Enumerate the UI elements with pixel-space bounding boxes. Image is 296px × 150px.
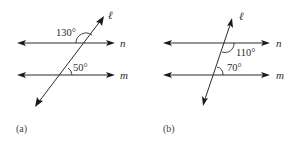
caption-b: (b) [163, 123, 175, 135]
figure-b: 110° 70° ℓ n m (b) [163, 10, 284, 135]
angle-label-bottom-b: 70° [227, 62, 242, 73]
transversal-label-a: ℓ [108, 9, 113, 21]
line-n-a [17, 40, 115, 46]
angle-arc-70 [217, 67, 223, 75]
angle-label-bottom-a: 50° [73, 62, 88, 73]
line-label-n-b: n [276, 37, 282, 49]
angle-arc-50 [68, 68, 72, 75]
parallel-lines-diagram: 130° 50° ℓ n m (a) 110° 70° ℓ [0, 0, 296, 150]
angle-label-top-b: 110° [236, 47, 256, 58]
line-label-m-b: m [276, 69, 284, 81]
caption-a: (a) [16, 123, 27, 135]
transversal-label-b: ℓ [239, 10, 244, 22]
line-m-b [163, 72, 270, 78]
line-m-a [17, 72, 115, 78]
figure-a: 130° 50° ℓ n m (a) [16, 9, 128, 135]
angle-label-top-a: 130° [56, 27, 76, 38]
line-n-b [163, 40, 270, 46]
line-label-m-a: m [120, 69, 128, 81]
line-label-n-a: n [120, 37, 126, 49]
